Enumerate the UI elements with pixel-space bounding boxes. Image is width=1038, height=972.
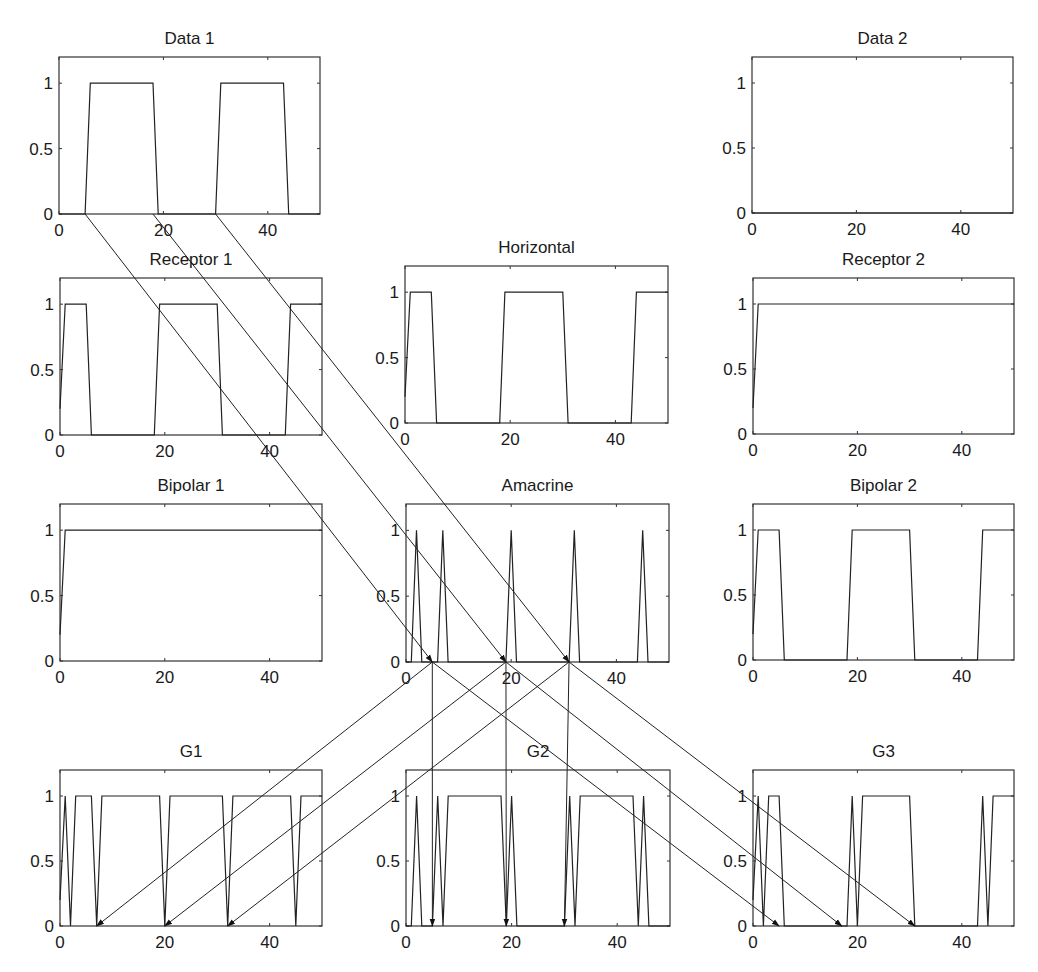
signal-trace-amacrine xyxy=(406,530,669,662)
arrow-amacrine-to-g3 xyxy=(569,662,915,926)
y-tick-label: 0 xyxy=(45,426,54,445)
subplot-data2: Data 20204000.51 xyxy=(722,29,1013,239)
x-tick-label: 20 xyxy=(847,220,866,239)
x-tick-label: 0 xyxy=(55,442,64,461)
subplot-g1: G10204000.51 xyxy=(30,742,322,952)
retina-model-diagram: Data 10204000.51Data 20204000.51Receptor… xyxy=(0,0,1038,972)
subplot-title: Data 1 xyxy=(164,29,214,48)
y-tick-label: 1 xyxy=(44,74,53,93)
y-tick-label: 0.5 xyxy=(30,587,54,606)
y-tick-label: 1 xyxy=(738,521,747,540)
y-tick-label: 1 xyxy=(45,521,54,540)
y-tick-label: 1 xyxy=(390,283,399,302)
signal-trace-receptor2 xyxy=(753,304,1014,408)
signal-trace-data1 xyxy=(59,83,320,214)
x-tick-label: 0 xyxy=(748,441,757,460)
signal-trace-g1 xyxy=(60,796,322,926)
x-tick-label: 20 xyxy=(154,221,173,240)
subplot-data1: Data 10204000.51 xyxy=(29,29,320,240)
x-tick-label: 20 xyxy=(502,933,521,952)
subplot-g3: G30204000.51 xyxy=(723,742,1014,952)
x-tick-label: 0 xyxy=(747,220,756,239)
x-tick-label: 0 xyxy=(748,667,757,686)
x-tick-label: 20 xyxy=(501,430,520,449)
y-tick-label: 0 xyxy=(45,652,54,671)
arrow-amacrine-to-g3 xyxy=(506,662,842,926)
y-tick-label: 1 xyxy=(45,787,54,806)
y-tick-label: 0.5 xyxy=(30,852,54,871)
x-tick-label: 0 xyxy=(748,933,757,952)
axes-frame xyxy=(753,504,1014,660)
signal-trace-bipolar1 xyxy=(60,530,322,635)
subplot-title: Data 2 xyxy=(857,29,907,48)
subplot-title: Receptor 1 xyxy=(149,250,232,269)
x-tick-label: 40 xyxy=(952,667,971,686)
x-tick-label: 0 xyxy=(54,221,63,240)
x-tick-label: 20 xyxy=(848,441,867,460)
arrow-data1-to-amacrine xyxy=(85,214,432,662)
x-tick-label: 40 xyxy=(607,669,626,688)
x-tick-label: 0 xyxy=(400,430,409,449)
subplot-receptor2: Receptor 20204000.51 xyxy=(723,250,1014,460)
y-tick-label: 0.5 xyxy=(376,852,400,871)
y-tick-label: 0.5 xyxy=(375,349,399,368)
y-tick-label: 0 xyxy=(45,917,54,936)
axes-frame xyxy=(59,57,320,214)
y-tick-label: 0.5 xyxy=(29,140,53,159)
y-tick-label: 0 xyxy=(391,653,400,672)
axes-frame xyxy=(60,504,322,661)
x-tick-label: 40 xyxy=(260,668,279,687)
arrow-amacrine-to-g2 xyxy=(564,662,569,926)
x-tick-label: 0 xyxy=(55,668,64,687)
subplot-bipolar2: Bipolar 20204000.51 xyxy=(723,476,1014,686)
x-tick-label: 0 xyxy=(55,933,64,952)
subplot-title: Bipolar 2 xyxy=(850,476,917,495)
x-tick-label: 20 xyxy=(155,442,174,461)
y-tick-label: 0 xyxy=(738,917,747,936)
x-tick-label: 40 xyxy=(608,933,627,952)
x-tick-label: 40 xyxy=(258,221,277,240)
y-tick-label: 0 xyxy=(391,917,400,936)
x-tick-label: 40 xyxy=(951,220,970,239)
subplot-receptor1: Receptor 10204000.51 xyxy=(30,250,322,461)
subplot-title: Bipolar 1 xyxy=(157,476,224,495)
y-tick-label: 0 xyxy=(738,651,747,670)
subplot-title: Receptor 2 xyxy=(842,250,925,269)
subplot-g2: G20204000.51 xyxy=(376,742,670,952)
subplot-horizontal: Horizontal0204000.51 xyxy=(375,238,668,449)
y-tick-label: 0.5 xyxy=(723,360,747,379)
subplot-title: Amacrine xyxy=(502,476,574,495)
subplot-title: Horizontal xyxy=(498,238,575,257)
signal-trace-g2 xyxy=(406,796,670,926)
y-tick-label: 0 xyxy=(737,204,746,223)
axes-frame xyxy=(752,57,1013,213)
subplot-title: G1 xyxy=(180,742,203,761)
y-tick-label: 0 xyxy=(738,425,747,444)
x-tick-label: 40 xyxy=(606,430,625,449)
subplot-amacrine: Amacrine0204000.51 xyxy=(376,476,669,688)
subplot-bipolar1: Bipolar 10204000.51 xyxy=(30,476,322,687)
y-tick-label: 0 xyxy=(390,414,399,433)
x-tick-label: 40 xyxy=(260,933,279,952)
signal-trace-receptor1 xyxy=(60,304,322,435)
y-tick-label: 0 xyxy=(44,205,53,224)
y-tick-label: 0.5 xyxy=(30,361,54,380)
arrow-data1-to-amacrine xyxy=(153,214,506,662)
signal-trace-g3 xyxy=(753,796,1014,926)
x-tick-label: 40 xyxy=(952,441,971,460)
y-tick-label: 1 xyxy=(45,295,54,314)
subplot-title: G3 xyxy=(872,742,895,761)
y-tick-label: 0.5 xyxy=(723,586,747,605)
x-tick-label: 20 xyxy=(848,933,867,952)
x-tick-label: 20 xyxy=(155,668,174,687)
y-tick-label: 0.5 xyxy=(723,852,747,871)
x-tick-label: 0 xyxy=(401,933,410,952)
x-tick-label: 20 xyxy=(155,933,174,952)
x-tick-label: 40 xyxy=(952,933,971,952)
axes-frame xyxy=(60,278,322,435)
arrow-amacrine-to-g1 xyxy=(165,662,506,926)
y-tick-label: 1 xyxy=(738,295,747,314)
y-tick-label: 0.5 xyxy=(722,139,746,158)
axes-frame xyxy=(753,278,1014,434)
x-tick-label: 20 xyxy=(848,667,867,686)
